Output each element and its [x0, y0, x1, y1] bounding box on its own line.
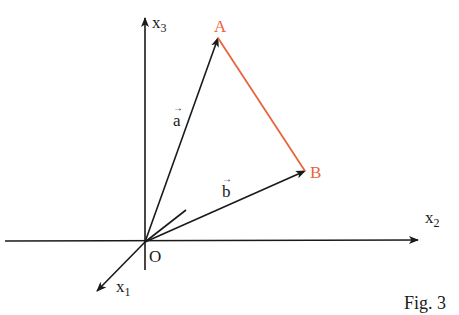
x2-axis-label: x2 — [425, 209, 440, 229]
x1-axis-label: x1 — [116, 278, 131, 298]
vector-b-label: → b — [222, 183, 231, 200]
diagram-canvas — [0, 0, 459, 315]
vector-a — [145, 38, 218, 242]
vector-arrow-icon: → — [222, 174, 232, 184]
vector-arrow-icon: → — [173, 103, 183, 113]
segment-ab — [218, 38, 305, 171]
vector-a-label: → a — [173, 112, 181, 129]
point-a-label: A — [214, 18, 226, 35]
x2-axis — [5, 240, 418, 241]
point-b-label: B — [310, 164, 321, 181]
origin-label: O — [149, 248, 161, 265]
x3-axis-label: x3 — [152, 14, 167, 34]
figure-caption: Fig. 3 — [404, 294, 446, 312]
